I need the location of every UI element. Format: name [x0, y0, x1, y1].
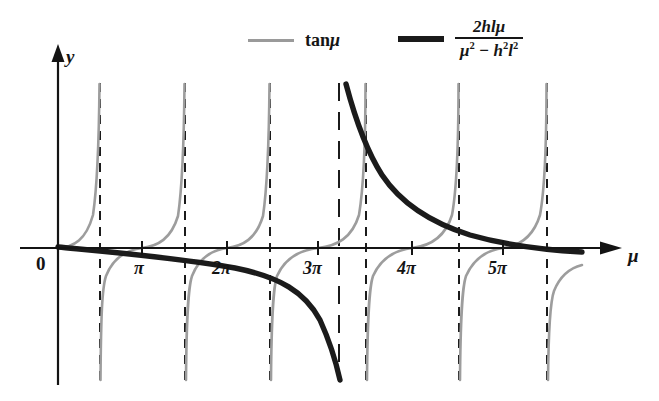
tan-branch-5 [367, 84, 459, 380]
tan-mu-curve [58, 84, 582, 380]
tan-branch-3 [186, 84, 270, 380]
origin-label: 0 [36, 253, 46, 275]
x-tick-label-4pi: 4π [397, 258, 416, 279]
x-tick-label-2pi: 2π [212, 258, 231, 279]
y-axis-label: y [66, 46, 74, 68]
tan-branch-1-rise [58, 84, 100, 248]
x-axis-label: μ [628, 245, 639, 267]
y-axis-arrowhead [52, 44, 65, 62]
x-tick-label-5pi: 5π [488, 258, 507, 279]
tan-branch-4 [271, 84, 366, 380]
x-axis-arrowhead [600, 242, 622, 255]
axis-lines [20, 44, 622, 385]
chart-page: tanμ 2hlμ μ2 − h2l2 [0, 0, 659, 401]
tan-branch-6 [460, 84, 547, 380]
tan-asymptote-lines [100, 83, 547, 380]
tan-branch-7 [548, 265, 582, 380]
x-tick-label-pi: π [134, 258, 144, 279]
x-tick-label-3pi: 3π [303, 258, 322, 279]
tan-branch-2 [101, 84, 185, 380]
rational-function-curve [58, 84, 582, 380]
chart-plot-area [0, 0, 659, 401]
